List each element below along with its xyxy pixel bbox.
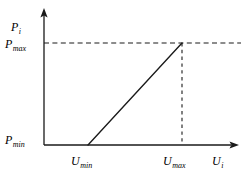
x-axis-label: Ui [212, 152, 223, 168]
y-axis-label-base: P [11, 20, 18, 34]
xtick-label-umin: Umin [71, 152, 92, 168]
characteristic-line [88, 43, 182, 145]
xtick-umin-base: U [71, 154, 80, 168]
ytick-pmax-subscript: max [13, 44, 26, 53]
xtick-umin-subscript: min [80, 161, 92, 170]
y-axis [40, 8, 47, 145]
ytick-label-pmin: Pmin [5, 131, 24, 147]
xtick-umax-base: U [163, 154, 172, 168]
figure-container: Pi Pmax Pmin Umin Umax Ui [0, 0, 252, 180]
x-axis [44, 141, 239, 148]
ytick-pmax-base: P [5, 37, 12, 51]
x-axis-label-base: U [212, 154, 221, 168]
xtick-label-umax: Umax [163, 152, 185, 168]
ytick-label-pmax: Pmax [5, 35, 26, 51]
y-axis-label: Pi [11, 18, 21, 34]
xtick-umax-subscript: max [172, 161, 185, 170]
ytick-pmin-base: P [5, 133, 12, 147]
ytick-pmin-subscript: min [13, 140, 25, 149]
